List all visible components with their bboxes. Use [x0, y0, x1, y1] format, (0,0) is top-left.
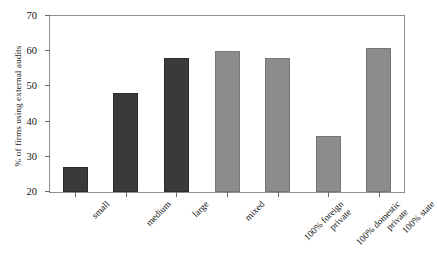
plot-area: 203040506070	[49, 15, 405, 193]
y-tick-label: 30	[27, 150, 38, 161]
y-tick: 30	[45, 156, 50, 157]
bar-large	[164, 58, 189, 192]
x-tick	[278, 192, 279, 197]
bar-small	[63, 167, 88, 192]
bar-100-state	[366, 48, 391, 192]
x-axis-label: mixed	[243, 199, 267, 223]
bar-medium	[113, 93, 138, 192]
x-axis-label: small	[90, 199, 112, 221]
bar-100-foreign-private	[265, 58, 290, 192]
x-tick	[227, 192, 228, 197]
y-tick: 60	[45, 50, 50, 51]
y-tick: 70	[45, 15, 50, 16]
y-tick: 40	[45, 121, 50, 122]
x-tick	[75, 192, 76, 197]
x-axis-label: 100% foreignprivate	[302, 199, 353, 250]
x-tick	[176, 192, 177, 197]
x-axis-label-line: small	[90, 199, 112, 221]
x-axis-label-line: mixed	[243, 199, 267, 223]
x-axis-label-line: medium	[144, 199, 173, 228]
x-axis-label-line: large	[191, 199, 212, 220]
y-tick-label: 40	[27, 115, 38, 126]
bar-mixed	[215, 51, 240, 192]
y-tick: 20	[45, 191, 50, 192]
x-tick	[328, 192, 329, 197]
y-tick: 50	[45, 85, 50, 86]
y-tick-label: 20	[27, 186, 38, 197]
y-tick-label: 70	[27, 10, 38, 21]
y-tick-label: 60	[27, 45, 38, 56]
bar-100-domestic-private	[316, 136, 341, 192]
plot-inner: 203040506070	[50, 16, 404, 192]
y-tick-label: 50	[27, 80, 38, 91]
x-axis-label: large	[191, 199, 212, 220]
x-axis-label: medium	[144, 199, 173, 228]
x-tick	[126, 192, 127, 197]
y-axis-title: % of firms using external audits	[13, 11, 23, 201]
x-tick	[379, 192, 380, 197]
